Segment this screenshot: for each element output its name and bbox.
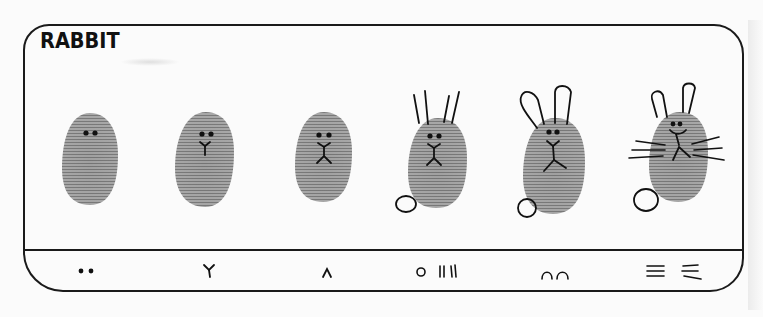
thumbprint-body-icon [62,113,118,205]
rabbit-step-4 [396,91,467,212]
rabbit-step-6 [629,84,724,212]
thumbprint-body-icon [175,112,234,207]
legend-label-5: ∩∩ [545,256,564,286]
rabbit-step-3 [295,112,352,202]
rabbit-step-2 [175,112,234,207]
tail-icon [634,189,658,211]
rabbit-step-5 [518,86,585,217]
rabbit-drawing-page: RABBIT [0,0,763,317]
rounded-ears-icon [652,84,695,118]
rabbit-step-1 [62,113,118,205]
tail-icon [518,199,536,217]
legend-label-1: •• [78,256,93,286]
thumbprint-body-icon [408,118,467,208]
legend-label-2: Y [205,256,213,286]
legend-label-4: O II II [421,256,455,286]
legend-label-6: ≡ ≡ [660,256,686,286]
legend-label-3: ∧ [322,256,332,286]
tail-icon [396,196,416,212]
thumbprint-body-icon [523,118,585,214]
